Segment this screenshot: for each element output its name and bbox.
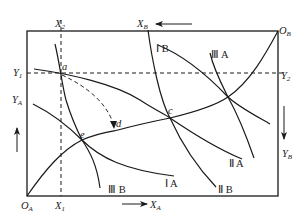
point-c-label: c	[168, 105, 173, 116]
curve-label-IIIA: Ⅲ A	[211, 49, 229, 60]
curve-label-IIA: Ⅱ A	[229, 158, 244, 169]
indifference-curve-IIIA	[210, 53, 254, 158]
y2-label: Y2	[281, 70, 291, 83]
point-d-label: d	[116, 118, 122, 129]
origin-a-label: OA	[21, 200, 34, 213]
indifference-curve-IA	[33, 104, 174, 176]
xb-label: XB	[136, 18, 148, 31]
x1-label: X1	[54, 200, 65, 213]
yb-label: YB	[282, 148, 293, 161]
curve-label-IB: Ⅰ B	[156, 43, 169, 54]
a-to-d-dashed-arc	[62, 75, 114, 126]
curve-label-IA: Ⅰ A	[165, 178, 178, 189]
curve-label-IIB: Ⅱ B	[218, 184, 233, 195]
y1-label: Y1	[13, 67, 22, 80]
xa-label: XA	[149, 199, 161, 212]
point-a-label: a	[62, 61, 67, 72]
curve-label-IIIB: Ⅲ B	[108, 184, 126, 195]
x2-label: X2	[54, 18, 65, 31]
ya-label: YA	[12, 94, 23, 107]
point-e-label: e	[80, 129, 85, 140]
edgeworth-box-diagram: OA OB XA YA XB YB X1 X2 Y1 Y2 a c d e Ⅰ …	[0, 0, 303, 221]
indifference-curve-IIA	[34, 69, 242, 159]
origin-b-label: OB	[279, 25, 292, 38]
